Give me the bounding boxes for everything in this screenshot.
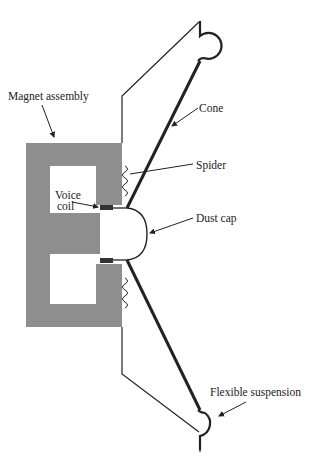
cone xyxy=(127,61,200,410)
speaker-diagram: Magnet assembly Cone Spider Voice coil D… xyxy=(0,0,317,471)
spider-leader xyxy=(130,164,193,174)
voice-coil-lower xyxy=(100,258,113,263)
label-voice-coil-line2: coil xyxy=(57,200,74,212)
label-dust-cap: Dust cap xyxy=(196,212,237,225)
dust-cap-leader xyxy=(150,218,193,233)
magnet-assembly-leader xyxy=(42,105,54,137)
flexible-suspension-leader xyxy=(219,402,246,416)
label-spider: Spider xyxy=(196,159,226,172)
label-flexible-suspension: Flexible suspension xyxy=(210,386,301,399)
label-cone: Cone xyxy=(199,102,223,114)
dust-cap xyxy=(127,208,147,260)
spider xyxy=(123,166,128,308)
voice-coil-leader xyxy=(72,202,98,207)
magnet-assembly xyxy=(26,143,122,327)
label-magnet-assembly: Magnet assembly xyxy=(8,90,89,103)
voice-coil-upper xyxy=(100,205,113,210)
